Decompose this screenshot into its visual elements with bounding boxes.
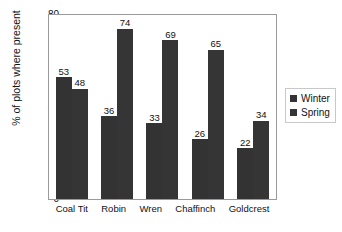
legend-swatch-icon (290, 109, 297, 116)
bar-wren-spring[interactable]: 69 (162, 40, 178, 199)
chart-legend: WinterSpring (285, 88, 336, 123)
bar-group: 2234 (237, 15, 269, 199)
legend-label: Spring (301, 106, 330, 120)
legend-item-winter[interactable]: Winter (290, 92, 330, 106)
bar-goldcrest-spring[interactable]: 34 (253, 121, 269, 199)
bar-group: 3369 (146, 15, 178, 199)
bar-value-label: 53 (58, 67, 69, 77)
bar-chaffinch-spring[interactable]: 65 (208, 50, 224, 200)
bar-robin-spring[interactable]: 74 (117, 29, 133, 199)
x-category-label: Chaffinch (175, 203, 215, 214)
bar-group: 5348 (56, 15, 88, 199)
bar-robin-winter[interactable]: 36 (101, 116, 117, 199)
legend-item-spring[interactable]: Spring (290, 106, 330, 120)
bar-value-label: 74 (120, 18, 131, 28)
bar-value-label: 34 (256, 110, 267, 120)
bar-value-label: 48 (74, 78, 85, 88)
bar-value-label: 36 (104, 106, 115, 116)
bar-groups: 53483674336926652234 (49, 15, 276, 199)
bar-value-label: 22 (240, 138, 251, 148)
bar-coaltit-spring[interactable]: 48 (72, 89, 88, 199)
bar-value-label: 69 (165, 30, 176, 40)
x-category-label: Goldcrest (229, 203, 270, 214)
bar-wren-winter[interactable]: 33 (146, 123, 162, 199)
bar-group: 3674 (101, 15, 133, 199)
bar-group: 2665 (192, 15, 224, 199)
bar-coaltit-winter[interactable]: 53 (56, 77, 72, 199)
bar-chaffinch-winter[interactable]: 26 (192, 139, 208, 199)
x-category-label: Robin (101, 203, 126, 214)
bar-goldcrest-winter[interactable]: 22 (237, 148, 253, 199)
bar-value-label: 65 (211, 39, 222, 49)
grouped-bar-chart: % of plots where present 807060504030201… (0, 0, 342, 232)
legend-label: Winter (301, 92, 330, 106)
bar-value-label: 33 (149, 113, 160, 123)
legend-swatch-icon (290, 95, 297, 102)
x-category-label: Wren (139, 203, 162, 214)
bar-value-label: 26 (195, 129, 206, 139)
x-category-label: Coal Tit (56, 203, 88, 214)
y-axis-title: % of plots where present (10, 0, 22, 148)
x-axis-category-labels: Coal TitRobinWrenChaffinchGoldcrest (49, 203, 276, 214)
